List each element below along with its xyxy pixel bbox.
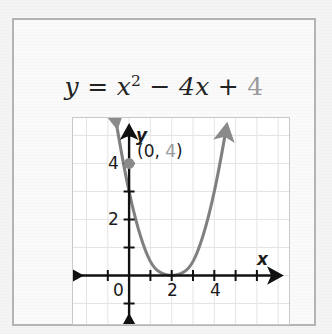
- equation-lhs: y: [64, 72, 78, 101]
- x-tick-label-4: 4: [210, 282, 221, 299]
- y-tick-label-4: 4: [108, 155, 119, 172]
- equation-plus: +: [218, 72, 239, 101]
- equation-minus: −: [149, 72, 170, 101]
- equation-title: y = x2 − 4x + 4: [14, 72, 314, 101]
- page-background: y = x2 − 4x + 4: [0, 0, 332, 334]
- point-label-close: ): [176, 141, 183, 161]
- equation-term1-base: x: [117, 72, 131, 101]
- equation-equals: =: [87, 72, 108, 101]
- x-tick-label-2: 2: [167, 282, 178, 299]
- point-annotation-label: (0, 4): [137, 143, 183, 160]
- x-axis-label: x: [257, 251, 268, 268]
- x-tick-label-0: 0: [113, 282, 124, 299]
- point-marker-0-4: [124, 158, 135, 169]
- point-label-value: 4: [165, 141, 176, 161]
- y-tick-label-2: 2: [108, 211, 119, 228]
- equation-term1-exponent: 2: [131, 72, 141, 90]
- figure-frame: y = x2 − 4x + 4: [12, 18, 316, 326]
- equation-term2: 4x: [179, 72, 210, 101]
- point-label-open: (0,: [137, 141, 165, 161]
- graph-panel: 4 2 0 2 4 y x (0, 4): [72, 117, 290, 325]
- equation-constant: 4: [247, 72, 263, 101]
